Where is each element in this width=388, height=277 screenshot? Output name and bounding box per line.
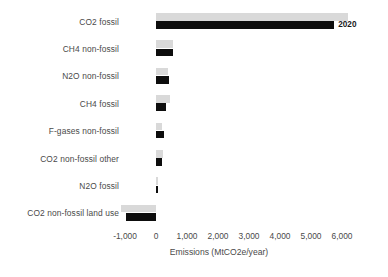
y-axis-label-3: CH4 fossil [80, 99, 119, 109]
chart-row-ch4-non-fossil: CH4 non-fossil [125, 35, 342, 62]
x-tick-7: 6,000 [332, 231, 353, 241]
y-axis-label-6: N2O fossil [79, 181, 119, 191]
plot-area: CO2 fossil 2020 CH4 non-fossil N2O non-f… [125, 8, 342, 227]
bar-dark-7 [126, 213, 156, 221]
bar-dark-2 [156, 76, 169, 84]
x-axis-title: Emissions (MtCO2e/year) [170, 247, 268, 257]
chart-row-co2-fossil: CO2 fossil 2020 [125, 8, 342, 35]
x-tick-2: 1,000 [177, 231, 198, 241]
x-axis: -1,000 0 1,000 2,000 3,000 4,000 5,000 6… [125, 231, 342, 245]
y-axis-label-0: CO2 fossil [79, 17, 119, 27]
chart-row-n2o-non-fossil: N2O non-fossil [125, 63, 342, 90]
y-axis-label-7: CO2 non-fossil land use [27, 208, 119, 218]
bar-light-2 [156, 68, 168, 76]
bar-light-1 [156, 40, 173, 48]
x-tick-5: 4,000 [270, 231, 291, 241]
chart-row-n2o-fossil: N2O fossil [125, 172, 342, 199]
bar-dark-1 [156, 49, 173, 57]
x-tick-6: 5,000 [301, 231, 322, 241]
y-axis-label-2: N2O non-fossil [62, 71, 119, 81]
bar-dark-6 [156, 186, 158, 194]
emissions-bar-chart: CO2 fossil 2020 CH4 non-fossil N2O non-f… [0, 0, 388, 277]
bar-dark-0 [156, 21, 334, 29]
chart-row-ch4-fossil: CH4 fossil [125, 90, 342, 117]
y-axis-label-1: CH4 non-fossil [63, 44, 119, 54]
y-axis-label-4: F-gases non-fossil [49, 126, 119, 136]
bar-light-3 [156, 95, 170, 103]
x-tick-0: -1,000 [113, 231, 137, 241]
chart-row-co2-non-fossil-land-use: CO2 non-fossil land use [125, 200, 342, 227]
y-axis-label-5: CO2 non-fossil other [40, 154, 119, 164]
bar-light-5 [156, 150, 163, 158]
chart-row-f-gases-non-fossil: F-gases non-fossil [125, 118, 342, 145]
x-tick-1: 0 [154, 231, 159, 241]
x-tick-4: 3,000 [239, 231, 260, 241]
bar-dark-3 [156, 103, 166, 111]
bar-dark-5 [156, 158, 162, 166]
bar-dark-4 [156, 131, 164, 139]
x-axis-title-wrap: Emissions (MtCO2e/year) [0, 247, 388, 257]
x-tick-3: 2,000 [208, 231, 229, 241]
chart-row-co2-non-fossil-other: CO2 non-fossil other [125, 145, 342, 172]
bar-light-0 [156, 13, 348, 21]
bar-light-6 [156, 177, 158, 185]
bar-annotation-2020: 2020 [338, 20, 356, 29]
bar-light-7 [121, 205, 156, 213]
bar-light-4 [156, 123, 162, 131]
